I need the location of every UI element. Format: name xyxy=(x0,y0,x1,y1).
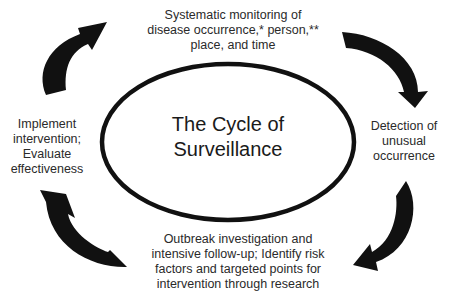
node-detection: Detection of unusual occurrence xyxy=(358,119,450,164)
arrow-right-to-bottom-icon xyxy=(353,181,413,271)
node-systematic-monitoring: Systematic monitoring of disease occurre… xyxy=(140,8,326,53)
node-implement-intervention: Implement intervention; Evaluate effecti… xyxy=(0,117,94,177)
node-outbreak-investigation: Outbreak investigation and intensive fol… xyxy=(140,232,336,292)
center-title: The Cycle of Surveillance xyxy=(100,112,356,162)
surveillance-cycle-diagram: The Cycle of Surveillance Systematic mon… xyxy=(0,0,454,302)
arrow-bottom-to-left-icon xyxy=(40,190,127,267)
arrow-top-to-right-icon xyxy=(342,32,428,108)
arrow-left-to-top-icon xyxy=(43,22,107,95)
